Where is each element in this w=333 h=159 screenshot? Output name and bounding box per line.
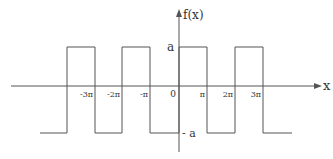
tick-label-3pi: 3π	[251, 90, 261, 99]
tick-label-negpi: -π	[140, 90, 148, 99]
y-axis-label: f(x)	[183, 8, 204, 22]
level-label-low: - a	[182, 127, 196, 140]
level-label-high: a	[167, 40, 174, 54]
tick-label-neg3pi: -3π	[80, 90, 93, 99]
tick-label-neg2pi: -2π	[107, 90, 120, 99]
y-axis-arrow-icon	[176, 9, 182, 17]
square-wave-diagram: x f(x) a - a -3π -2π -π 0 π 2π 3π	[0, 0, 333, 159]
tick-label-2pi: 2π	[223, 90, 233, 99]
tick-label-pi: π	[200, 90, 205, 99]
x-axis-arrow-icon	[314, 83, 322, 89]
tick-label-zero: 0	[170, 89, 176, 99]
x-axis-label: x	[323, 78, 331, 93]
